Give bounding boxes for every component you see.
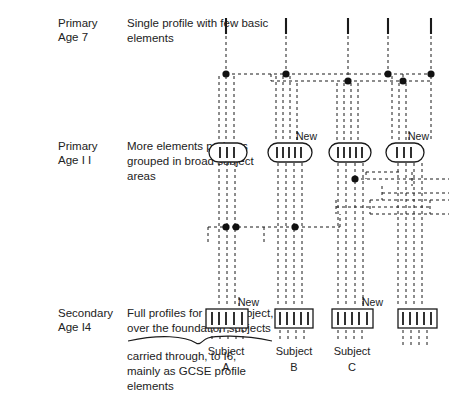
node [232,223,239,230]
node [384,70,391,77]
row1-to-row2-verticals [219,76,431,141]
age7-element-ticks [226,18,431,34]
age7-lower-connector [271,74,432,81]
foundation-subjects-brace [128,336,272,344]
group-shape-2 [268,143,312,162]
age11-groups [209,143,424,162]
age14-lower-stubs [212,330,427,348]
age7-nodes [222,70,434,84]
diagram-canvas: Primary Age 7 Single profile with few ba… [0,0,450,396]
age11-group-ticks [220,147,411,158]
group-shape-1 [209,143,247,162]
row2-to-row3-verticals [219,163,422,306]
group-shape-4 [386,143,424,162]
node [222,223,229,230]
node [291,223,298,230]
diagram-graphics [0,0,450,396]
node [351,175,358,182]
new-pointer-ticks-row3 [239,297,363,308]
